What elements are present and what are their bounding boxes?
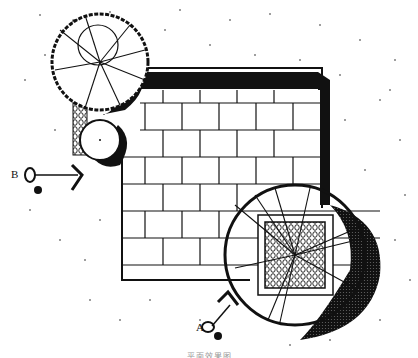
wall-shadow-top <box>140 72 318 88</box>
section-marker-b <box>25 165 82 194</box>
shrub-circle <box>80 120 127 167</box>
section-label-a: A <box>196 321 204 333</box>
drawing-caption: 平面效果图 <box>0 350 418 358</box>
section-label-b: B <box>11 168 18 180</box>
site-plan-drawing <box>0 0 418 358</box>
paving-grid <box>122 88 380 280</box>
section-marker-a <box>202 292 238 340</box>
tree-canopy-top-left <box>52 14 148 115</box>
